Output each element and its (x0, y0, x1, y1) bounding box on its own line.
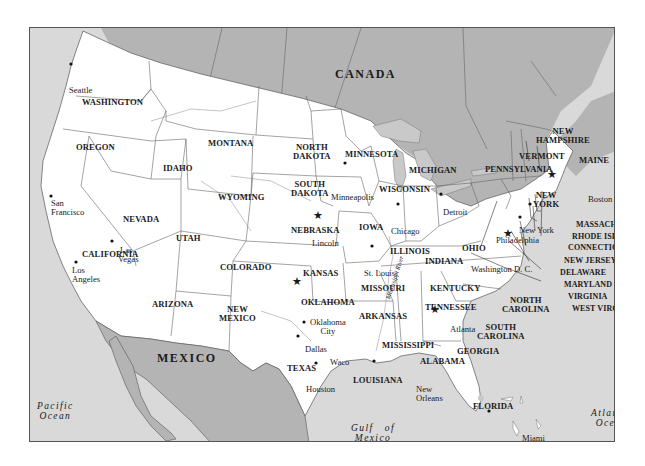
state-label-south-carolina: SOUTH CAROLINA (477, 323, 525, 341)
city-label-oklahoma-city: Oklahoma City (310, 318, 346, 336)
city-label-houston: Houston (306, 385, 335, 394)
state-label-missouri: MISSOURI (361, 284, 405, 293)
state-label-alabama: ALABAMA (420, 357, 465, 366)
city-label-dallas: Dallas (305, 345, 327, 354)
city-label-los-angeles: Los Angeles (72, 266, 100, 284)
state-label-new-hampshire: NEW HAMPSHIRE (536, 127, 590, 145)
state-label-oklahoma: OKLAHOMA (301, 298, 355, 307)
state-label-maine: MAINE (579, 156, 609, 165)
city-label-new-york: New York (519, 226, 554, 235)
state-label-connecticut: CONNECTICUT (568, 244, 615, 252)
state-label-kansas: KANSAS (303, 269, 338, 278)
state-label-nebraska: NEBRASKA (291, 226, 340, 235)
state-label-north-dakota: NORTH DAKOTA (293, 143, 331, 161)
state-label-mississippi: MISSISSIPPI (382, 341, 434, 350)
state-label-texas: TEXAS (287, 364, 316, 373)
state-label-iowa: IOWA (359, 223, 383, 232)
city-label-philadelphia: Philadelphia (496, 236, 539, 245)
state-label-new-jersey: NEW JERSEY (564, 257, 615, 265)
state-label-montana: MONTANA (208, 139, 253, 148)
city-label-boston: Boston (588, 195, 612, 204)
state-label-minnesota: MINNESOTA (345, 150, 398, 159)
state-label-washington: WASHINGTON (82, 98, 143, 107)
state-label-oregon: OREGON (76, 143, 115, 152)
state-label-tennessee: TENNESSEE (425, 303, 477, 312)
water-label-pacific: Pacific Ocean (37, 402, 74, 422)
city-label-washington-dc: Washington D. C. (471, 265, 532, 274)
state-label-pennsylvania: PENNSYLVANIA (485, 165, 553, 174)
state-label-new-mexico: NEW MEXICO (219, 305, 256, 323)
state-label-north-carolina: NORTH CAROLINA (502, 296, 550, 314)
city-label-las-vegas: Las Vegas (110, 246, 139, 264)
city-label-waco: Waco (330, 358, 349, 367)
state-label-rhode-island: RHODE ISLAND (572, 233, 615, 241)
state-label-south-dakota: SOUTH DAKOTA (291, 180, 329, 198)
state-label-idaho: IDAHO (163, 164, 193, 173)
state-label-georgia: GEORGIA (457, 347, 499, 356)
state-label-vermont: VERMONT (519, 152, 565, 161)
country-label-mexico: MEXICO (157, 352, 217, 365)
city-label-miami: Miami (522, 434, 545, 442)
city-label-seattle: Seattle (69, 86, 92, 95)
state-label-utah: UTAH (176, 234, 201, 243)
city-label-st-louis: St. Louis (364, 269, 395, 278)
state-label-wisconsin: WISCONSIN (379, 185, 430, 194)
star-icon-lincoln: ★ (313, 210, 323, 222)
state-label-arkansas: ARKANSAS (359, 312, 407, 321)
state-label-nevada: NEVADA (123, 215, 159, 224)
city-label-atlanta: Atlanta (450, 325, 475, 334)
city-label-new-orleans: New Orleans (416, 385, 443, 403)
water-label-atlantic: Atlantic Ocean (591, 409, 615, 429)
state-label-west-virginia: WEST VIRGINIA (572, 305, 615, 313)
state-label-virginia: VIRGINIA (568, 293, 607, 301)
state-label-colorado: COLORADO (220, 263, 271, 272)
state-label-new-york: NEW YORK (533, 191, 559, 209)
water-label-gulf-of-mexico: Gulf of Mexico (351, 424, 395, 442)
state-label-maryland: MARYLAND (564, 281, 612, 289)
city-label-detroit: Detroit (443, 208, 467, 217)
city-label-minneapolis: Minneapolis (331, 193, 374, 202)
star-icon-oklahoma-city: ★ (292, 276, 302, 288)
state-label-indiana: INDIANA (425, 257, 463, 266)
state-label-michigan: MICHIGAN (409, 166, 457, 175)
state-label-louisiana: LOUISIANA (353, 376, 403, 385)
state-label-wyoming: WYOMING (218, 193, 265, 202)
city-label-chicago: Chicago (391, 227, 420, 236)
city-label-san-francisco: San Francisco (51, 199, 84, 217)
map-frame: ★ ★ ★ ★ ★ CANADA MEXICO Pacific Ocean At… (29, 27, 615, 442)
state-label-arizona: ARIZONA (152, 300, 193, 309)
state-label-delaware: DELAWARE (560, 269, 606, 277)
state-label-ohio: OHIO (462, 244, 486, 253)
state-label-kentucky: KENTUCKY (430, 284, 480, 293)
city-label-lincoln: Lincoln (312, 239, 339, 248)
state-label-illinois: ILLINOIS (390, 247, 430, 256)
state-label-florida: FLORIDA (473, 402, 513, 411)
country-label-canada: CANADA (335, 68, 396, 81)
state-label-massachusetts: MASSACHUSETTS (576, 221, 615, 229)
